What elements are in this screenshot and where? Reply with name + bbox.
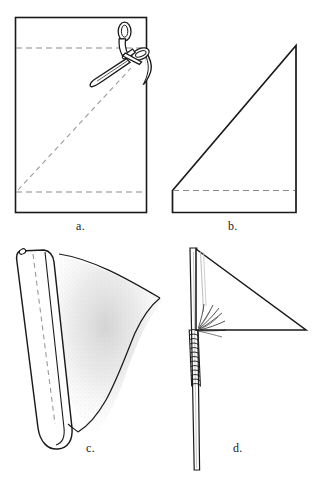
stipple-shading [55, 250, 175, 440]
panel-a [16, 18, 152, 213]
panel-d [189, 248, 306, 470]
panel-label-d: d. [233, 441, 243, 456]
cloth-rectangle [16, 18, 147, 213]
figure-root: a. b. c. d. [0, 0, 317, 484]
panel-c [17, 248, 175, 449]
pennant-triangle [196, 249, 306, 330]
panel-b [173, 46, 297, 213]
panel-label-a: a. [76, 219, 85, 234]
scissors-handle-ring-upper-hole [121, 25, 127, 37]
panel-label-b: b. [228, 219, 238, 234]
panel-label-c: c. [86, 441, 95, 456]
flag-construction-diagram [0, 0, 317, 484]
panel-b-cloth-outline [173, 46, 297, 213]
